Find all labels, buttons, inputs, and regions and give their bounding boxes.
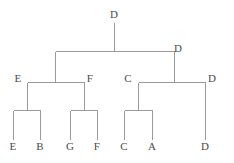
node-label-leaf-g: G xyxy=(66,141,74,152)
edge-group xyxy=(14,23,206,140)
node-label-leaf-f: F xyxy=(94,141,100,152)
node-label-n-c: C xyxy=(124,73,132,84)
node-label-n-e: E xyxy=(15,73,22,84)
node-label-leaf-d: D xyxy=(201,141,209,152)
node-label-n-d2: D xyxy=(208,73,216,84)
tree-edges xyxy=(0,0,234,163)
node-label-leaf-a: A xyxy=(148,141,156,152)
node-label-leaf-e: E xyxy=(10,141,17,152)
node-label-leaf-b: B xyxy=(36,141,44,152)
node-label-leaf-c: C xyxy=(120,141,128,152)
dendrogram-figure: DDEFCDEBGFCAD xyxy=(0,0,234,163)
node-label-n-f: F xyxy=(87,73,93,84)
node-label-root: D xyxy=(110,9,118,20)
node-label-n-right: D xyxy=(174,43,182,54)
